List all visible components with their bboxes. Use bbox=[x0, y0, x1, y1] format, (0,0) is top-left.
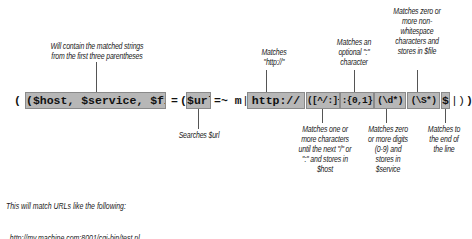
annotation-host: Matches one or more characters until the… bbox=[295, 125, 355, 175]
url-variable-box: $url bbox=[186, 92, 211, 109]
http-literal-box: http:// bbox=[247, 92, 305, 109]
annotation-http: Matches "http://" bbox=[255, 48, 292, 68]
outer-open-paren: ( bbox=[14, 92, 21, 109]
file-group-box: (\S*) bbox=[407, 92, 440, 109]
annotation-service: Matches zero or more digits (0-9) and st… bbox=[366, 125, 410, 175]
leader-file bbox=[417, 70, 418, 92]
leader-colon bbox=[354, 70, 355, 92]
match-operator: =~ m bbox=[214, 92, 242, 109]
leader-lhs bbox=[96, 62, 97, 92]
annotation-lhs: Will contain the matched strings from th… bbox=[47, 42, 147, 62]
annotation-anchor: Matches to the end of the line bbox=[425, 125, 462, 155]
end-anchor-box: $ bbox=[441, 92, 450, 109]
leader-http bbox=[266, 70, 267, 92]
leader-url bbox=[198, 109, 199, 129]
lhs-variables-box: ($host, $service, $file) bbox=[25, 92, 166, 109]
outer-close-paren: ) bbox=[466, 92, 472, 109]
example-line: http://my.machine.com:8001/cgi-bin/test.… bbox=[6, 234, 230, 239]
leader-service bbox=[386, 109, 387, 123]
examples-block: This will match URLs like the following:… bbox=[6, 181, 230, 239]
assignment-equals: = bbox=[171, 92, 178, 109]
service-group-box: (\d*) bbox=[374, 92, 406, 109]
examples-intro: This will match URLs like the following: bbox=[6, 202, 230, 213]
annotation-colon: Matches an optional ":" character bbox=[334, 38, 373, 68]
leader-host bbox=[322, 109, 323, 123]
host-group-box: ([^/:]+) bbox=[306, 92, 340, 109]
colon-optional-box: :{0,1} bbox=[340, 92, 374, 109]
leader-anchor bbox=[445, 109, 446, 123]
delimiter-close: |) bbox=[451, 92, 465, 109]
annotation-url: Searches $url bbox=[176, 131, 222, 141]
annotation-file: Matches zero or more non-whitespace char… bbox=[392, 7, 441, 57]
